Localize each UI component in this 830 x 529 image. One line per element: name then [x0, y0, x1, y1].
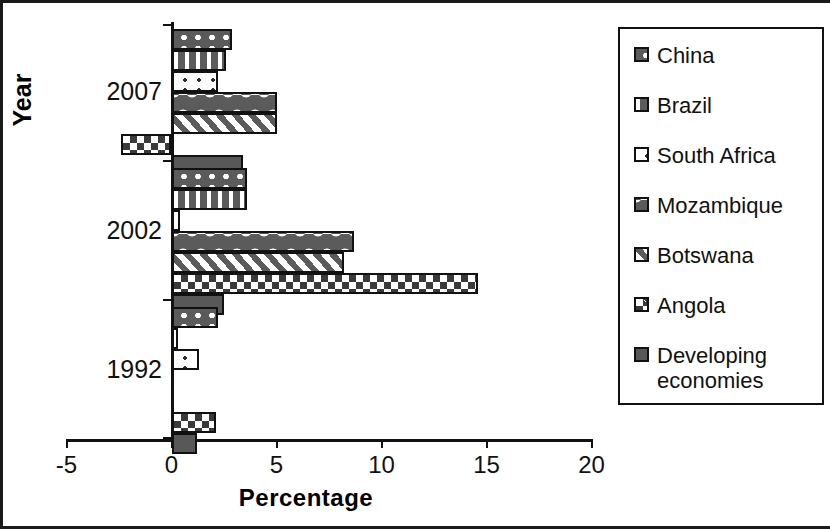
legend-item[interactable]: China	[634, 43, 714, 68]
bar	[172, 168, 248, 189]
legend-item-label: South Africa	[657, 143, 776, 168]
bar	[172, 412, 216, 433]
bar	[172, 113, 277, 134]
bar	[172, 50, 227, 71]
bar	[172, 231, 355, 252]
bar	[172, 210, 180, 231]
bar	[172, 349, 199, 370]
legend-item[interactable]: South Africa	[634, 143, 776, 168]
bar	[172, 307, 218, 328]
legend-item[interactable]: Angola	[634, 293, 726, 318]
bar	[172, 273, 479, 294]
bar	[172, 71, 218, 92]
legend-item-label: China	[657, 43, 714, 68]
chart-screenshot: -505101520 200720021992 Percentage Year …	[0, 0, 830, 529]
bar	[172, 328, 178, 349]
legend-item[interactable]: Brazil	[634, 93, 712, 118]
x-axis-tick-label: 15	[473, 452, 500, 478]
x-axis-line	[66, 439, 593, 442]
bar	[172, 29, 233, 50]
legend-item[interactable]: Mozambique	[634, 193, 783, 218]
x-axis-tick	[591, 439, 593, 448]
y-group-label: 2007	[22, 78, 162, 105]
y-axis-tick	[163, 24, 172, 26]
legend-item[interactable]: Developing economies	[634, 343, 767, 393]
legend-swatch-icon	[634, 247, 649, 262]
bar	[121, 134, 171, 155]
x-axis-tick	[381, 439, 383, 448]
legend-swatch-icon	[634, 147, 649, 162]
x-axis-tick-label: 20	[578, 452, 605, 478]
legend-swatch-icon	[634, 197, 649, 212]
legend-item-label: Angola	[657, 293, 726, 318]
y-axis-title: Year	[8, 30, 37, 170]
x-axis-tick-label: -5	[56, 452, 77, 478]
legend-item-label: Mozambique	[657, 193, 783, 218]
legend-swatch-icon	[634, 97, 649, 112]
legend-swatch-icon	[634, 297, 649, 312]
y-group-label: 1992	[22, 356, 162, 383]
legend-item-label: Botswana	[657, 243, 754, 268]
x-axis-tick	[171, 439, 173, 448]
legend-swatch-icon	[634, 347, 649, 362]
x-axis-title: Percentage	[0, 484, 612, 512]
legend-item-label: Brazil	[657, 93, 712, 118]
x-axis-tick-label: 0	[165, 452, 178, 478]
x-axis-tick	[66, 439, 68, 448]
legend-item[interactable]: Botswana	[634, 243, 754, 268]
bar	[172, 252, 344, 273]
y-group-label: 2002	[22, 217, 162, 244]
legend-item-label: Developing economies	[657, 343, 767, 393]
plot-area: -505101520 200720021992 Percentage	[0, 0, 612, 470]
x-axis-tick	[486, 439, 488, 448]
y-axis-tick	[163, 299, 172, 301]
y-axis-tick	[163, 437, 172, 439]
chart-legend: ChinaBrazilSouth AfricaMozambiqueBotswan…	[618, 27, 824, 405]
x-axis-tick-label: 5	[270, 452, 283, 478]
x-axis-tick-label: 10	[368, 452, 395, 478]
y-axis-tick	[163, 160, 172, 162]
legend-swatch-icon	[634, 47, 649, 62]
bar	[172, 189, 248, 210]
x-axis-tick	[276, 439, 278, 448]
bar	[172, 92, 277, 113]
